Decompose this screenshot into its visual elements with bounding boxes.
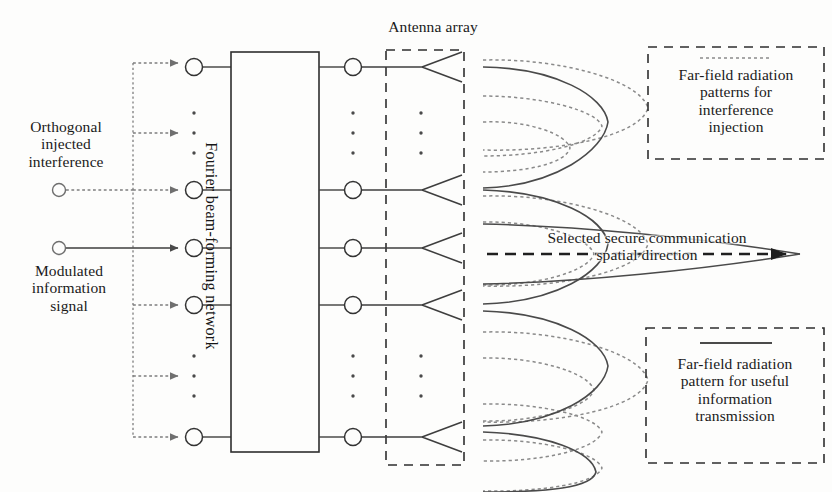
output-port-2 [345, 182, 362, 199]
network-output-ports [319, 59, 362, 446]
modulated-signal-label: Modulated information signal [8, 262, 130, 314]
selected-direction-label: Selected secure communication spatial di… [487, 229, 807, 264]
interference-source-node [53, 184, 66, 197]
antenna-ellipsis-dots [419, 111, 422, 397]
output-port-4 [345, 297, 362, 314]
output-port-3 [345, 240, 362, 257]
information-source-lead [53, 242, 179, 255]
output-port-1 [345, 59, 362, 76]
diagram-canvas: Antenna array Orthogonal injected interf… [0, 0, 832, 492]
beamforming-network-box [231, 52, 319, 452]
antenna-elements [362, 52, 462, 452]
interference-feed-lines [133, 63, 178, 437]
information-source-node [53, 242, 66, 255]
antenna-array-label: Antenna array [368, 18, 498, 35]
interference-source-lead [53, 184, 134, 197]
legend-useful-label: Far-field radiation pattern for useful i… [650, 355, 820, 424]
antenna-array-box [386, 50, 464, 465]
legend-interference-label: Far-field radiation patterns for interfe… [652, 66, 820, 135]
orthogonal-interference-label: Orthogonal injected interference [2, 118, 130, 170]
beamforming-network-label: Fourier beam-forming network [188, 46, 234, 446]
output-port-5 [345, 429, 362, 446]
